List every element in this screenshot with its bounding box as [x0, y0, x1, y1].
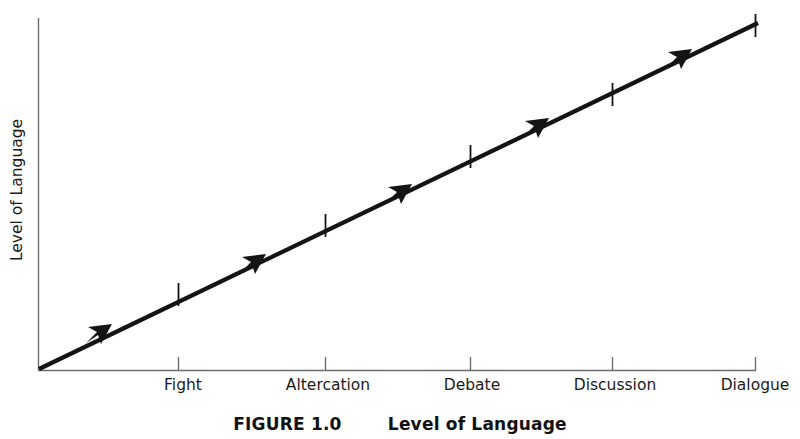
figure-container: Level of Language Fight Altercation Deba… [0, 0, 800, 439]
x-tick-label-fight: Fight [164, 376, 202, 394]
y-axis-label: Level of Language [8, 119, 26, 261]
caption-title: Level of Language [388, 414, 567, 434]
x-tick-label-discussion: Discussion [574, 376, 656, 394]
x-tick-label-dialogue: Dialogue [721, 376, 790, 394]
x-tick-label-altercation: Altercation [286, 376, 370, 394]
line-chart: Level of Language Fight Altercation Deba… [0, 0, 800, 439]
x-tick-label-debate: Debate [444, 376, 500, 394]
figure-caption: FIGURE 1.0 Level of Language [0, 414, 800, 434]
caption-number: FIGURE 1.0 [233, 414, 341, 434]
